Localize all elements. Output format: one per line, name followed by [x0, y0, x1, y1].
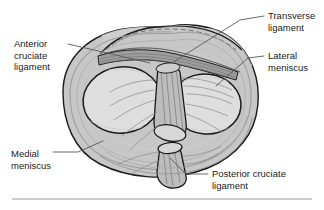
label-medial-meniscus: Medial meniscus — [11, 148, 51, 171]
label-medial-meniscus-line2: meniscus — [11, 160, 51, 172]
label-transverse-ligament-line1: Transverse — [268, 10, 315, 21]
label-transverse-ligament-line2: ligament — [268, 22, 315, 34]
label-posterior-cruciate-ligament: Posterior cruciate ligament — [212, 168, 286, 191]
label-anterior-cruciate-ligament-line2: cruciate — [14, 50, 50, 62]
label-posterior-cruciate-ligament-line1: Posterior cruciate — [212, 168, 286, 179]
label-transverse-ligament: Transverse ligament — [268, 10, 315, 33]
label-anterior-cruciate-ligament: Anterior cruciate ligament — [14, 38, 50, 73]
label-medial-meniscus-line1: Medial — [11, 148, 39, 159]
label-anterior-cruciate-ligament-line3: ligament — [14, 61, 50, 73]
figure-page: Anterior cruciate ligament Transverse li… — [0, 0, 324, 210]
label-anterior-cruciate-ligament-line1: Anterior — [14, 38, 47, 49]
label-posterior-cruciate-ligament-line2: ligament — [212, 180, 286, 192]
label-lateral-meniscus: Lateral meniscus — [268, 50, 308, 73]
label-lateral-meniscus-line1: Lateral — [268, 50, 297, 61]
posterior-cruciate-ligament-stump — [157, 141, 186, 188]
label-lateral-meniscus-line2: meniscus — [268, 62, 308, 74]
